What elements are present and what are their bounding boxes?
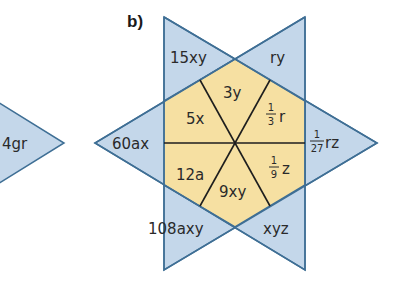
part-label: b) — [127, 12, 143, 31]
star-point-top-right: ry — [270, 49, 285, 67]
star-point-bottom-left: 108axy — [148, 220, 204, 238]
fraction-numerator: 1 — [271, 155, 277, 166]
fraction-suffix: r — [279, 108, 286, 126]
star-point-bottom-right: xyz — [263, 220, 289, 238]
left-fragment-label: 4gr — [2, 135, 28, 153]
star-point-left: 60ax — [112, 135, 149, 153]
segment-lower-left: 12a — [176, 166, 204, 184]
star-diagram: b) 4gr 15xy ry 60ax 1 27 rz 108axy xyz 3… — [0, 0, 398, 288]
fraction-denominator: 3 — [268, 116, 274, 127]
fraction-numerator: 1 — [268, 102, 274, 113]
segment-bottom: 9xy — [219, 183, 246, 201]
fraction-suffix: z — [282, 160, 290, 178]
fraction-suffix: rz — [325, 134, 339, 152]
star-point-top-left: 15xy — [170, 49, 207, 67]
fraction-denominator: 9 — [271, 169, 277, 180]
segment-top: 3y — [223, 84, 242, 102]
fraction-denominator: 27 — [311, 143, 324, 154]
segment-upper-left: 5x — [186, 110, 205, 128]
fraction-numerator: 1 — [314, 129, 320, 140]
